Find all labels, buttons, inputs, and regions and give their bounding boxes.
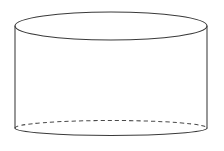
cylinder-top-ellipse	[15, 12, 207, 40]
cylinder-body-fill	[15, 26, 207, 136]
cylinder-drawing	[0, 0, 224, 151]
cylinder-figure-canvas	[0, 0, 224, 151]
